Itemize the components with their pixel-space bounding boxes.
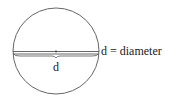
diameter-definition-label: d = diameter bbox=[101, 44, 162, 58]
brace-icon bbox=[14, 54, 98, 58]
diameter-symbol-label: d bbox=[53, 60, 59, 74]
diagram-canvas: d d = diameter bbox=[0, 0, 176, 101]
center-point bbox=[55, 51, 57, 53]
